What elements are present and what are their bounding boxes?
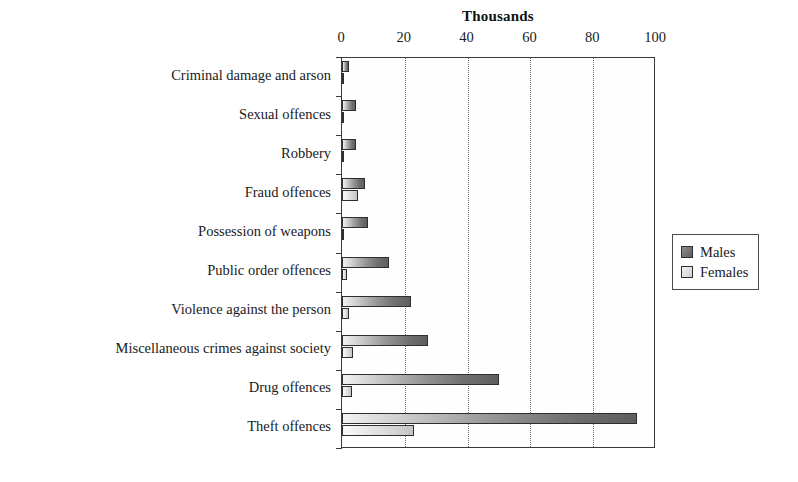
chart-title: Thousands (341, 8, 655, 25)
y-tick-mark (336, 292, 342, 293)
y-category-label: Possession of weapons (198, 223, 331, 239)
legend-swatch-icon-males (681, 246, 693, 258)
y-category-label: Criminal damage and arson (171, 67, 331, 83)
y-category-label: Theft offences (247, 418, 331, 434)
bar-females (342, 73, 344, 84)
x-tick-label-100: 100 (644, 29, 666, 46)
bar-males (342, 217, 368, 228)
bar-males (342, 296, 411, 307)
bar-group (342, 410, 654, 449)
y-tick-mark (336, 174, 342, 175)
bar-females (342, 308, 349, 319)
bar-group (342, 332, 654, 371)
bar-group (342, 254, 654, 293)
bar-group (342, 97, 654, 136)
y-tick-mark (336, 213, 342, 214)
bar-females (342, 190, 358, 201)
plot-area (341, 57, 655, 448)
y-tick-mark (336, 370, 342, 371)
y-tick-mark (336, 409, 342, 410)
x-axis-tick-labels: 020406080100 (341, 29, 655, 48)
y-tick-mark (336, 96, 342, 97)
x-tick-label-0: 0 (337, 29, 344, 46)
y-category-label: Fraud offences (245, 184, 331, 200)
x-tick-label-40: 40 (459, 29, 474, 46)
bar-males (342, 61, 349, 72)
bar-females (342, 425, 414, 436)
bar-females (342, 229, 344, 240)
bar-males (342, 413, 637, 424)
legend-label: Males (700, 244, 735, 261)
bar-males (342, 139, 356, 150)
y-tick-mark (336, 448, 342, 449)
bar-males (342, 257, 389, 268)
bar-group (342, 371, 654, 410)
bar-group (342, 58, 654, 97)
x-tick-label-60: 60 (522, 29, 537, 46)
bar-chart: Thousands 020406080100 Criminal damage a… (0, 0, 798, 482)
y-tick-mark (336, 57, 342, 58)
legend: MalesFemales (672, 234, 759, 290)
legend-label: Females (700, 264, 748, 281)
bar-group (342, 175, 654, 214)
y-category-label: Public order offences (207, 262, 331, 278)
bar-males (342, 178, 365, 189)
x-tick-label-20: 20 (397, 29, 412, 46)
y-category-label: Violence against the person (171, 301, 331, 317)
y-category-label: Drug offences (249, 379, 331, 395)
bar-group (342, 214, 654, 253)
y-tick-mark (336, 253, 342, 254)
y-category-label: Robbery (281, 145, 331, 161)
bar-females (342, 112, 344, 123)
legend-swatch-icon-females (681, 266, 693, 278)
y-category-label: Sexual offences (239, 106, 331, 122)
bar-females (342, 269, 347, 280)
bar-males (342, 335, 428, 346)
bar-males (342, 374, 499, 385)
y-tick-mark (336, 135, 342, 136)
y-axis-tick-marks (335, 57, 342, 448)
bar-females (342, 347, 353, 358)
y-tick-mark (336, 331, 342, 332)
y-axis-category-labels: Criminal damage and arsonSexual offences… (0, 57, 331, 448)
legend-item-males[interactable]: Males (681, 242, 748, 262)
bar-males (342, 100, 356, 111)
x-tick-label-80: 80 (585, 29, 600, 46)
y-category-label: Miscellaneous crimes against society (116, 340, 331, 356)
bar-females (342, 151, 344, 162)
bar-group (342, 293, 654, 332)
bars-layer (342, 58, 654, 447)
bar-group (342, 136, 654, 175)
bar-females (342, 386, 352, 397)
legend-item-females[interactable]: Females (681, 262, 748, 282)
